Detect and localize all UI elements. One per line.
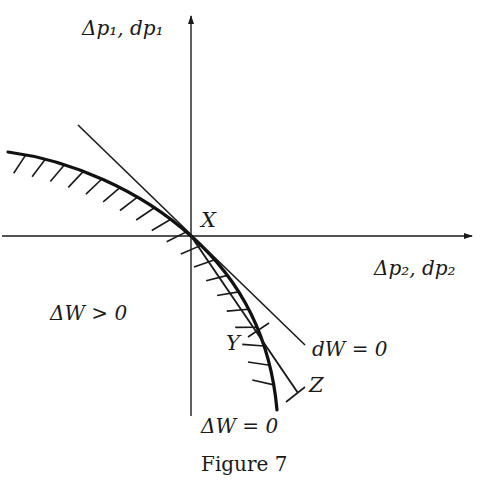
hatch-mark xyxy=(152,219,171,230)
hatch-mark xyxy=(68,171,83,187)
hatch-mark xyxy=(227,309,249,311)
hatch-mark xyxy=(252,380,273,385)
hatch-mark xyxy=(103,188,120,202)
delta-w-zero-label: ΔW = 0 xyxy=(200,414,278,438)
chord-line-xyz xyxy=(191,236,298,393)
hatch-mark xyxy=(120,197,138,210)
horizontal-axis-label: Δp₂, dp₂ xyxy=(373,256,456,280)
hatch-mark xyxy=(242,344,264,346)
point-x-label: X xyxy=(199,208,217,232)
point-z-label: Z xyxy=(308,373,324,397)
vertical-axis-label: Δp₁, dp₁ xyxy=(81,16,164,40)
hatch-mark xyxy=(167,232,187,242)
hatch-mark xyxy=(217,292,239,296)
hatch-mark xyxy=(248,362,270,365)
point-y-label: Y xyxy=(226,331,242,355)
dw-zero-label: dW = 0 xyxy=(312,337,388,361)
hatch-mark xyxy=(206,275,227,280)
hatch-mark xyxy=(14,155,26,173)
hatch-mark xyxy=(32,159,45,177)
delta-w-zero-curve xyxy=(8,152,277,410)
region-label: ΔW > 0 xyxy=(49,301,127,325)
figure-caption: Figure 7 xyxy=(201,452,287,476)
hatch-mark xyxy=(86,179,102,194)
welfare-diagram: Δp₁, dp₁ Δp₂, dp₂ X Y Z dW = 0 ΔW = 0 ΔW… xyxy=(0,0,481,481)
hatch-mark xyxy=(50,165,64,182)
hatch-mark xyxy=(136,208,154,220)
